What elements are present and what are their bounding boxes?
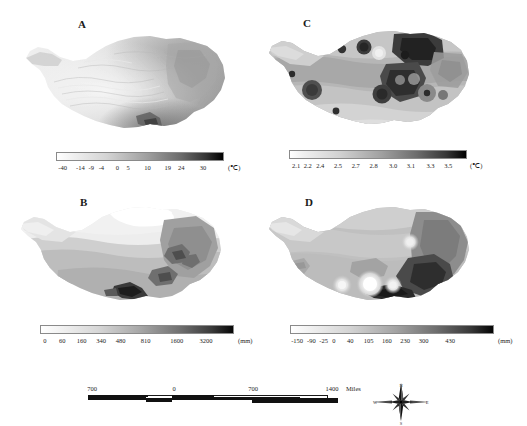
compass-label-south: S <box>400 421 403 426</box>
scale-bar-unit: Miles <box>346 385 361 392</box>
panel-c-tick-8: 3.3 <box>426 161 434 171</box>
panel-c-colorbar-ticks: 2.1 2.2 2.4 2.5 2.7 2.8 3.0 3.1 3.3 3.5 <box>289 161 467 173</box>
panel-a-tick-7: 19 <box>164 163 171 173</box>
compass-label-east: E <box>426 400 429 405</box>
panel-c-tick-2: 2.4 <box>316 161 324 171</box>
compass-rose: N S E W <box>372 382 430 426</box>
panel-b-tick-3: 340 <box>96 336 106 346</box>
panel-b-tick-7: 3200 <box>199 336 212 346</box>
scale-bar-fill-g <box>252 398 338 403</box>
panel-c-colorbar-unit: (℃) <box>470 161 482 171</box>
panel-c-tick-7: 3.1 <box>407 161 415 171</box>
panel-d-tick-8: 300 <box>419 336 429 346</box>
panel-a-tick-8: 24 <box>178 163 185 173</box>
panel-b-tick-0: 0 <box>43 336 46 346</box>
panel-a-tick-4: 0 <box>116 163 119 173</box>
compass-rose-icon: N S E W <box>372 382 430 426</box>
panel-c-tick-4: 2.7 <box>352 161 360 171</box>
panel-b-tick-6: 1600 <box>170 336 183 346</box>
panel-b-tick-2: 160 <box>77 336 87 346</box>
panel-c-tick-3: 2.5 <box>334 161 342 171</box>
scale-bar-fill-a <box>88 395 146 400</box>
scale-bar: 700 0 700 1400 Miles <box>88 385 338 407</box>
panel-b-colorbar-ticks: 0 60 160 340 480 810 1600 3200 <box>40 336 234 348</box>
scale-bar-fill-c <box>172 395 214 400</box>
panel-d-tick-4: 40 <box>347 336 354 346</box>
panel-d-map <box>266 200 506 320</box>
panel-c-tick-5: 2.8 <box>370 161 378 171</box>
panel-d-tick-9: 430 <box>445 336 455 346</box>
panel-b-tick-4: 480 <box>116 336 126 346</box>
scale-bar-label-1: 0 <box>172 385 175 392</box>
panel-a: A <box>0 0 264 190</box>
scale-bar-label-3: 1400 <box>326 385 339 392</box>
compass-label-west: W <box>373 400 378 405</box>
scale-bar-label-0: 700 <box>87 385 97 392</box>
panel-d-tick-3: 0 <box>332 336 335 346</box>
panel-a-tick-9: 30 <box>200 163 207 173</box>
panel-a-tick-2: -9 <box>89 163 94 173</box>
panel-a-tick-0: -40 <box>58 163 67 173</box>
panel-a-colorbar-unit: (℃) <box>228 163 240 173</box>
panel-b-colorbar <box>40 325 234 334</box>
panel-c-tick-0: 2.1 <box>292 161 300 171</box>
panel-b-tick-5: 810 <box>141 336 151 346</box>
panel-d-tick-6: 160 <box>382 336 392 346</box>
panel-c-colorbar <box>289 150 467 159</box>
panel-d-tick-1: -90 <box>307 336 316 346</box>
scale-bar-label-2: 700 <box>248 385 258 392</box>
panel-d-tick-5: 105 <box>364 336 374 346</box>
panel-a-colorbar-ticks: -40 -14 -9 -4 0 5 10 19 24 30 <box>56 163 224 175</box>
panel-b-map <box>18 200 250 320</box>
panel-d-tick-2: -25 <box>319 336 328 346</box>
panel-b-colorbar-unit: (mm) <box>238 336 252 346</box>
scale-bar-fill-b <box>146 398 172 402</box>
panel-c-map <box>266 22 506 147</box>
panel-a-tick-3: -4 <box>99 163 104 173</box>
panel-b-tick-1: 60 <box>59 336 66 346</box>
panel-c-tick-6: 3.0 <box>389 161 397 171</box>
panel-d: D <box>264 190 527 365</box>
panel-d-colorbar-ticks: -150 -90 -25 0 40 105 160 230 300 430 <box>290 336 494 348</box>
panel-c-tick-1: 2.2 <box>304 161 312 171</box>
panel-d-tick-0: -150 <box>291 336 303 346</box>
panel-a-colorbar <box>56 152 224 161</box>
panel-d-colorbar <box>290 325 494 334</box>
panel-d-tick-7: 230 <box>400 336 410 346</box>
figure-canvas: A <box>0 0 527 426</box>
panel-a-tick-6: 10 <box>144 163 151 173</box>
panel-b: B <box>0 190 264 365</box>
panel-a-tick-1: -14 <box>76 163 85 173</box>
panel-a-map <box>18 24 248 146</box>
panel-d-colorbar-unit: (mm) <box>498 336 512 346</box>
compass-label-north: N <box>399 383 403 388</box>
panel-c: C <box>264 0 527 190</box>
panel-a-tick-5: 5 <box>127 163 130 173</box>
panel-c-tick-9: 3.5 <box>444 161 452 171</box>
